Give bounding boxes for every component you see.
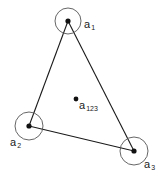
edge-a3-a1 [68, 21, 134, 151]
edge-a2-a3 [29, 126, 134, 151]
vertex-point-a1 [65, 18, 70, 23]
label-a123: a123 [79, 100, 98, 112]
label-a1: a1 [84, 19, 95, 31]
label-a2: a2 [10, 137, 21, 149]
vertex-point-a3 [131, 148, 136, 153]
edge-a1-a2 [29, 21, 68, 126]
centroid-point-a123 [74, 97, 79, 102]
triangle-diagram [0, 0, 165, 178]
label-a3: a3 [144, 159, 155, 171]
vertex-point-a2 [26, 123, 31, 128]
